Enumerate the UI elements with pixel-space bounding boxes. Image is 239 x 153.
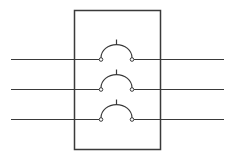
switch-enclosure bbox=[75, 11, 161, 150]
contact-terminal bbox=[99, 88, 103, 92]
contact-terminal bbox=[99, 118, 103, 122]
switch-arc bbox=[101, 105, 132, 118]
switch-pole-3 bbox=[11, 100, 224, 122]
poles-group bbox=[11, 40, 224, 122]
contact-terminal bbox=[130, 58, 134, 62]
contact-terminal bbox=[99, 58, 103, 62]
switch-pole-2 bbox=[11, 70, 224, 92]
three-pole-switch-diagram bbox=[0, 0, 239, 153]
switch-arc bbox=[101, 45, 132, 58]
contact-terminal bbox=[130, 118, 134, 122]
switch-arc bbox=[101, 75, 132, 88]
contact-terminal bbox=[130, 88, 134, 92]
switch-pole-1 bbox=[11, 40, 224, 62]
